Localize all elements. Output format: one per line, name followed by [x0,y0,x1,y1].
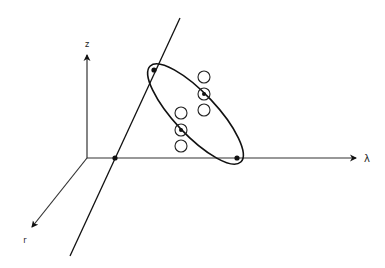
ellipse-top-point [151,67,156,72]
z-axis-label: z [85,40,89,49]
diagram-svg: z λ r [0,0,385,268]
r-axis [32,158,87,227]
circle-center-dot [179,128,183,132]
circle [198,104,210,116]
circle [175,140,187,152]
line-lambda-intersection [112,155,117,160]
circle [198,71,210,83]
circle [175,107,187,119]
intersection-points [112,67,239,160]
diagram-canvas: z λ r [0,0,385,268]
lambda-axis-label: λ [364,153,370,164]
circle-center-dot [202,92,206,96]
ellipse-bottom-point [234,155,239,160]
r-axis-label: r [23,236,27,245]
